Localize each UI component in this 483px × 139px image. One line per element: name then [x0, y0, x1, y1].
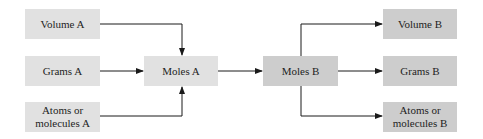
arrow-moles-b-to-atoms-b: [301, 86, 382, 116]
arrow-atoms-a-to-moles-a: [100, 87, 182, 116]
node-atoms-b: Atoms or molecules B: [383, 102, 457, 132]
node-label: Volume A: [40, 18, 84, 31]
node-label: Grams A: [43, 65, 82, 78]
node-label-line1: Atoms or: [42, 104, 83, 117]
node-label: Grams B: [400, 65, 439, 78]
node-moles-b: Moles B: [263, 56, 338, 86]
node-volume-b: Volume B: [383, 9, 457, 39]
arrow-moles-b-to-volume-b: [301, 24, 382, 56]
node-atoms-a: Atoms or molecules A: [25, 102, 100, 132]
node-grams-b: Grams B: [383, 56, 457, 86]
node-label-line2: molecules B: [393, 117, 448, 130]
node-grams-a: Grams A: [25, 56, 100, 86]
node-label-line2: molecules A: [35, 117, 90, 130]
node-volume-a: Volume A: [25, 9, 100, 39]
arrow-volume-a-to-moles-a: [100, 24, 182, 55]
node-label-line1: Atoms or: [399, 104, 440, 117]
node-moles-a: Moles A: [144, 56, 218, 86]
node-label: Volume B: [398, 18, 442, 31]
node-label: Moles B: [282, 65, 320, 78]
node-label: Moles A: [162, 65, 200, 78]
